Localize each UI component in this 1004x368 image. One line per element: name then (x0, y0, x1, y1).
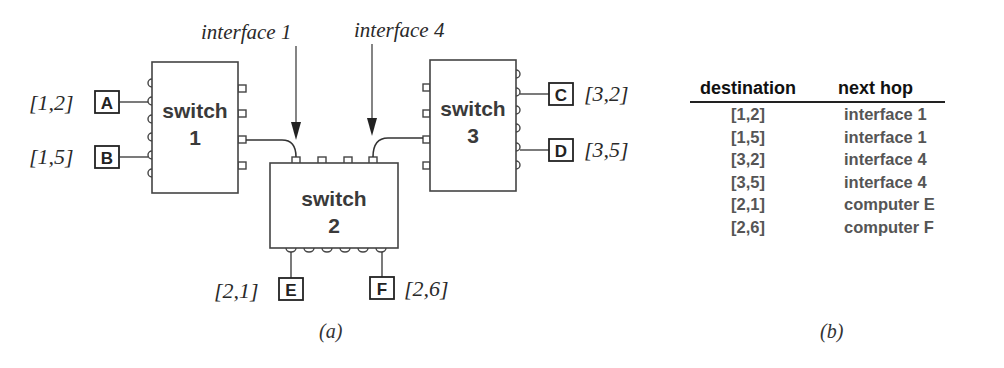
header-next-hop: next hop (806, 78, 945, 102)
switch-1-label: switch (162, 99, 227, 122)
svg-text:E: E (285, 281, 296, 300)
header-destination: destination (690, 78, 806, 102)
host-a-address: [1,2] (29, 90, 74, 115)
table-row: [1,5]interface 1 (690, 126, 945, 149)
svg-text:A: A (101, 94, 113, 113)
table-caption: (b) (820, 320, 843, 343)
host-d-address: [3,5] (584, 137, 629, 162)
switch-2-label: switch (301, 187, 366, 210)
table-row: [2,1]computer E (690, 193, 945, 216)
switch-3: switch 3 (423, 60, 520, 191)
link-switch1-switch2 (246, 140, 296, 157)
svg-text:B: B (101, 149, 113, 168)
diagram-caption: (a) (319, 320, 342, 343)
switch-1-number: 1 (189, 126, 201, 149)
host-e: [2,1] E (214, 252, 303, 303)
arrowhead-icon (291, 122, 301, 140)
svg-text:C: C (555, 86, 567, 105)
switch-3-label: switch (440, 97, 505, 120)
switch-2-number: 2 (328, 214, 340, 237)
svg-text:F: F (377, 280, 387, 299)
host-b-address: [1,5] (29, 144, 74, 169)
switch-2: switch 2 (270, 157, 398, 252)
table-row: [3,5]interface 4 (690, 171, 945, 194)
host-d: D [3,5] (520, 137, 629, 162)
host-b: [1,5] B (29, 144, 148, 169)
svg-text:D: D (555, 142, 567, 161)
forwarding-table: destination next hop [1,2]interface 1 [1… (690, 78, 945, 238)
host-c: C [3,2] (520, 81, 629, 106)
interface-1-label: interface 1 (201, 20, 291, 44)
arrowhead-icon (367, 118, 377, 136)
host-e-address: [2,1] (214, 278, 259, 303)
host-f: F [2,6] (370, 252, 449, 301)
table-row: [2,6]computer F (690, 216, 945, 239)
switch-1: switch 1 (148, 62, 246, 193)
link-switch3-switch2 (373, 138, 423, 157)
host-c-address: [3,2] (584, 81, 629, 106)
table-row: [1,2]interface 1 (690, 102, 945, 126)
host-f-address: [2,6] (404, 276, 449, 301)
interface-4-label: interface 4 (354, 18, 445, 42)
switch-3-number: 3 (467, 124, 479, 147)
host-a: [1,2] A (29, 90, 148, 115)
table-row: [3,2]interface 4 (690, 148, 945, 171)
